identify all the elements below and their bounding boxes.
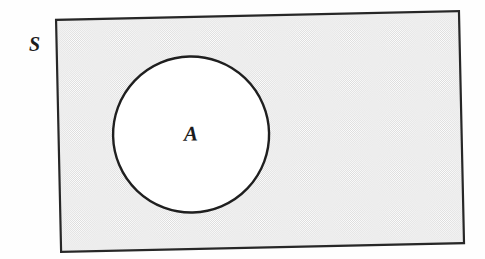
venn-diagram-canvas: A S: [0, 0, 485, 259]
venn-diagram-figure: A S: [0, 0, 485, 259]
event-label-a: A: [182, 121, 199, 145]
sample-space-group: A: [56, 11, 464, 252]
sample-space-label-s: S: [29, 33, 41, 55]
